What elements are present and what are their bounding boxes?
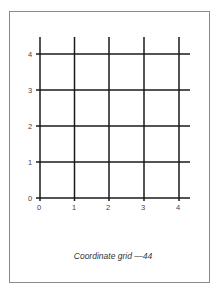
tick-label: 0	[28, 194, 32, 203]
x-axis-labels: 0 1 2 3 4	[37, 203, 180, 212]
tick-label: 4	[28, 50, 32, 59]
coordinate-grid: 4 3 2 1 0 0 1 2 3 4	[0, 0, 220, 294]
figure-caption: Coordinate grid —44	[0, 251, 220, 261]
tick-label: 1	[28, 158, 32, 167]
tick-label: 2	[106, 203, 110, 212]
horizontal-grid-lines	[36, 54, 190, 198]
y-axis-labels: 4 3 2 1 0	[28, 50, 32, 203]
tick-label: 0	[37, 203, 41, 212]
tick-label: 2	[28, 122, 32, 131]
vertical-grid-lines	[40, 37, 179, 201]
tick-label: 3	[141, 203, 145, 212]
tick-label: 4	[176, 203, 180, 212]
tick-label: 3	[28, 86, 32, 95]
tick-label: 1	[72, 203, 76, 212]
